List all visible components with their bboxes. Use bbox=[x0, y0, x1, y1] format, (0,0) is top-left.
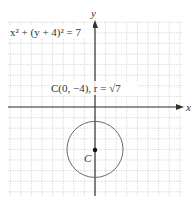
center-point bbox=[93, 148, 97, 152]
x-axis: x bbox=[8, 101, 191, 113]
x-axis-label: x bbox=[185, 101, 191, 113]
center-point-label: C bbox=[84, 152, 92, 164]
center-radius-label: C(0, −4), r = √7 bbox=[51, 82, 121, 95]
y-axis-label: y bbox=[90, 7, 96, 19]
equation-label: x² + (y + 4)² = 7 bbox=[10, 26, 82, 39]
circle-graph: x y C x² + (y + 4)² = 7 C(0, −4), r = √7 bbox=[0, 0, 192, 205]
